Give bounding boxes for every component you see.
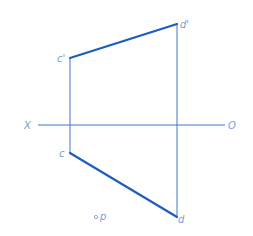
projection-diagram: X O c' d' c d p [0, 0, 253, 236]
axis-label-x: X [23, 120, 32, 131]
label-d-prime: d' [180, 19, 189, 30]
axis-label-o: O [228, 120, 236, 131]
label-c: c [59, 148, 65, 159]
line-c-d [70, 153, 177, 217]
label-p: p [99, 211, 106, 222]
label-d: d [178, 214, 185, 225]
point-p-marker [94, 215, 97, 218]
line-c-prime-d-prime [70, 24, 177, 58]
label-c-prime: c' [57, 53, 65, 64]
